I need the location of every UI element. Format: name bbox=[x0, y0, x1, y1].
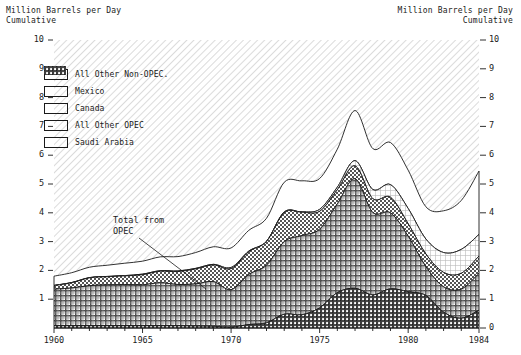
y-axis-tick-label-left: 7 bbox=[22, 121, 44, 130]
y-axis-tick-label-right: 7 bbox=[489, 121, 511, 130]
legend-label-canada: Canada bbox=[75, 104, 105, 113]
y-axis-tick-label-left: 1 bbox=[22, 294, 44, 303]
y-axis-tick-label-right: 8 bbox=[489, 93, 511, 102]
y-axis-tick-label-right: 10 bbox=[489, 35, 511, 44]
y-axis-tick-label-right: 1 bbox=[489, 294, 511, 303]
x-axis-tick-label: 1975 bbox=[300, 336, 340, 345]
legend-item-all-other-opec: All Other OPEC bbox=[44, 117, 204, 134]
legend-item-mexico: Mexico bbox=[44, 83, 204, 100]
legend-swatch-saudi-arabia bbox=[44, 137, 68, 148]
legend: All Other Non-OPEC. Mexico Canada All Ot… bbox=[44, 66, 204, 151]
y-axis-tick-label-left: 10 bbox=[22, 35, 44, 44]
y-axis-tick-label-left: 5 bbox=[22, 179, 44, 188]
legend-label-saudi-arabia: Saudi Arabia bbox=[75, 138, 134, 147]
stacked-area-chart: Million Barrels per Day Cumulative Milli… bbox=[0, 0, 521, 355]
x-axis-tick-label: 1970 bbox=[211, 336, 251, 345]
y-axis-tick-label-left: 9 bbox=[22, 64, 44, 73]
legend-swatch-mexico bbox=[44, 86, 68, 97]
y-axis-tick-label-right: 2 bbox=[489, 265, 511, 274]
legend-label-mexico: Mexico bbox=[75, 87, 105, 96]
y-axis-tick-label-left: 6 bbox=[22, 150, 44, 159]
legend-swatch-all-other-opec bbox=[44, 120, 68, 131]
y-axis-tick-label-right: 0 bbox=[489, 323, 511, 332]
y-axis-tick-label-right: 5 bbox=[489, 179, 511, 188]
total-from-opec-annotation: Total from OPEC bbox=[113, 215, 164, 237]
legend-label-all-other-non-opec: All Other Non-OPEC. bbox=[75, 70, 168, 79]
legend-label-all-other-opec: All Other OPEC bbox=[75, 121, 144, 130]
legend-item-canada: Canada bbox=[44, 100, 204, 117]
y-axis-tick-label-right: 4 bbox=[489, 208, 511, 217]
x-axis-tick-label: 1965 bbox=[123, 336, 163, 345]
legend-swatch-canada bbox=[44, 103, 68, 114]
x-axis-tick-label: 1984 bbox=[459, 336, 499, 345]
y-axis-tick-label-left: 3 bbox=[22, 237, 44, 246]
plot-area bbox=[0, 0, 521, 355]
legend-item-all-other-non-opec: All Other Non-OPEC. bbox=[44, 66, 204, 83]
y-axis-tick-label-left: 8 bbox=[22, 93, 44, 102]
y-axis-tick-label-right: 6 bbox=[489, 150, 511, 159]
y-axis-tick-label-right: 9 bbox=[489, 64, 511, 73]
y-axis-tick-label-left: 2 bbox=[22, 265, 44, 274]
legend-item-saudi-arabia: Saudi Arabia bbox=[44, 134, 204, 151]
y-axis-tick-label-left: 4 bbox=[22, 208, 44, 217]
x-axis-tick-label: 1960 bbox=[34, 336, 74, 345]
y-axis-tick-label-right: 3 bbox=[489, 237, 511, 246]
x-axis-tick-label: 1980 bbox=[388, 336, 428, 345]
